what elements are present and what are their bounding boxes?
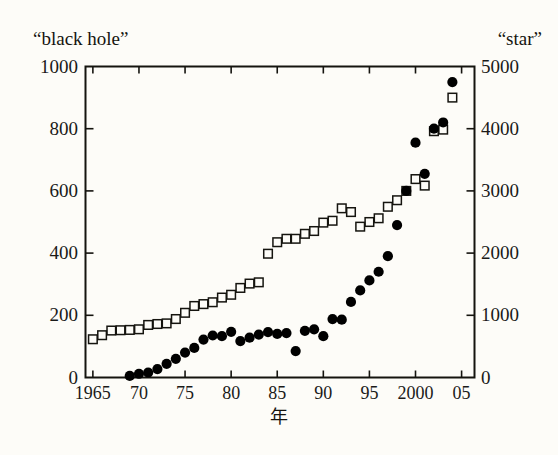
data-point-star bbox=[374, 214, 383, 223]
data-point-star bbox=[245, 279, 254, 288]
data-point-star bbox=[89, 335, 98, 344]
data-point-star bbox=[135, 325, 144, 334]
y-tick-label-right: 2000 bbox=[481, 243, 551, 262]
data-point-black-hole bbox=[254, 329, 264, 339]
y-tick-label-left: 1000 bbox=[18, 57, 78, 76]
data-point-black-hole bbox=[263, 327, 273, 337]
data-point-black-hole bbox=[208, 330, 218, 340]
data-point-star bbox=[125, 326, 134, 335]
data-point-black-hole bbox=[410, 138, 420, 148]
data-point-star bbox=[199, 300, 208, 309]
data-point-star bbox=[347, 208, 356, 217]
data-point-black-hole bbox=[346, 297, 356, 307]
y-axis-ticks-right bbox=[467, 129, 475, 316]
data-point-star bbox=[448, 93, 457, 102]
data-point-black-hole bbox=[420, 169, 430, 179]
data-point-star bbox=[236, 284, 245, 293]
x-tick-label: 75 bbox=[176, 384, 194, 402]
data-point-black-hole bbox=[309, 324, 319, 334]
data-point-star bbox=[301, 230, 310, 239]
data-point-black-hole bbox=[401, 186, 411, 196]
data-point-star bbox=[310, 227, 319, 236]
x-tick-label: 2000 bbox=[398, 384, 434, 402]
series-black-hole-markers bbox=[125, 77, 458, 381]
data-point-black-hole bbox=[226, 327, 236, 337]
data-point-star bbox=[208, 298, 217, 307]
data-point-black-hole bbox=[189, 343, 199, 353]
data-point-star bbox=[356, 222, 365, 231]
x-tick-label: 1965 bbox=[75, 384, 111, 402]
y-tick-label-right: 3000 bbox=[481, 181, 551, 200]
y-tick-label-left: 200 bbox=[18, 305, 78, 324]
data-point-black-hole bbox=[291, 346, 301, 356]
data-point-star bbox=[172, 315, 181, 324]
series-star-markers bbox=[89, 93, 457, 343]
x-tick-label: 85 bbox=[268, 384, 286, 402]
x-axis-title: 年 bbox=[0, 408, 558, 426]
data-point-black-hole bbox=[355, 285, 365, 295]
data-point-black-hole bbox=[272, 329, 282, 339]
y-tick-label-right: 0 bbox=[481, 368, 551, 387]
data-point-black-hole bbox=[438, 117, 448, 127]
data-point-star bbox=[319, 218, 328, 227]
data-point-black-hole bbox=[235, 336, 245, 346]
data-point-black-hole bbox=[300, 326, 310, 336]
data-point-black-hole bbox=[180, 348, 190, 358]
data-point-black-hole bbox=[198, 334, 208, 344]
data-point-star bbox=[190, 302, 199, 311]
data-point-star bbox=[328, 216, 337, 225]
data-point-star bbox=[98, 331, 107, 340]
data-point-black-hole bbox=[125, 371, 135, 381]
data-point-star bbox=[255, 278, 264, 287]
data-point-star bbox=[181, 309, 190, 318]
data-point-black-hole bbox=[383, 251, 393, 261]
y-axis-ticks-left bbox=[86, 129, 94, 316]
figure-canvas: “black hole” “star” 19657075808590952000… bbox=[0, 0, 558, 455]
y-tick-label-left: 0 bbox=[18, 368, 78, 387]
data-point-star bbox=[116, 326, 125, 335]
y-tick-label-right: 4000 bbox=[481, 119, 551, 138]
data-point-black-hole bbox=[134, 369, 144, 379]
data-point-star bbox=[282, 234, 291, 243]
y-tick-label-right: 5000 bbox=[481, 57, 551, 76]
data-point-star bbox=[107, 326, 116, 335]
data-point-star bbox=[162, 319, 171, 328]
data-point-black-hole bbox=[429, 124, 439, 134]
data-point-star bbox=[273, 238, 282, 247]
x-tick-label: 05 bbox=[453, 384, 471, 402]
data-point-black-hole bbox=[374, 267, 384, 277]
data-point-black-hole bbox=[244, 333, 254, 343]
data-point-star bbox=[153, 320, 162, 329]
data-point-star bbox=[264, 249, 273, 258]
data-point-star bbox=[291, 234, 300, 243]
data-point-star bbox=[384, 202, 393, 211]
data-point-black-hole bbox=[217, 331, 227, 341]
data-point-black-hole bbox=[447, 77, 457, 87]
data-point-star bbox=[144, 321, 153, 330]
data-point-black-hole bbox=[281, 328, 291, 338]
data-point-black-hole bbox=[162, 359, 172, 369]
data-point-star bbox=[411, 175, 420, 184]
data-point-black-hole bbox=[364, 275, 374, 285]
data-point-star bbox=[218, 293, 227, 302]
data-point-star bbox=[337, 204, 346, 213]
data-point-black-hole bbox=[318, 331, 328, 341]
data-point-black-hole bbox=[327, 314, 337, 324]
data-point-black-hole bbox=[337, 315, 347, 325]
data-point-black-hole bbox=[143, 367, 153, 377]
y-tick-label-left: 800 bbox=[18, 119, 78, 138]
x-tick-label: 70 bbox=[130, 384, 148, 402]
x-tick-label: 95 bbox=[360, 384, 378, 402]
x-tick-label: 90 bbox=[314, 384, 332, 402]
data-point-star bbox=[393, 196, 402, 205]
data-point-star bbox=[227, 290, 236, 299]
data-point-star bbox=[365, 218, 374, 227]
x-tick-label: 80 bbox=[222, 384, 240, 402]
y-tick-label-left: 600 bbox=[18, 181, 78, 200]
data-point-star bbox=[420, 181, 429, 190]
y-tick-label-right: 1000 bbox=[481, 305, 551, 324]
data-point-black-hole bbox=[392, 220, 402, 230]
data-point-black-hole bbox=[171, 354, 181, 364]
y-tick-label-left: 400 bbox=[18, 243, 78, 262]
data-point-black-hole bbox=[152, 364, 162, 374]
